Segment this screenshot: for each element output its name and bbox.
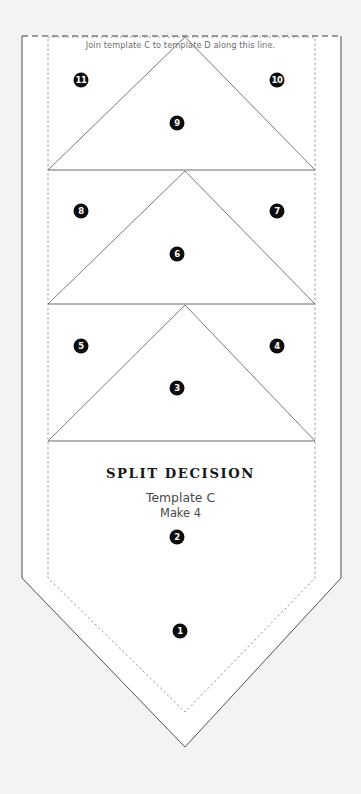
- piece-number-badge-6: 6: [170, 247, 185, 262]
- piece-number-badge-8: 8: [74, 204, 89, 219]
- piece-number-badge-11: 11: [74, 73, 89, 88]
- pattern-sheet: Join template C to template D along this…: [0, 0, 361, 794]
- piece-number-badge-1: 1: [173, 624, 188, 639]
- piece-number-badge-5: 5: [74, 339, 89, 354]
- piece-number-badge-4: 4: [270, 339, 285, 354]
- piece-number-badge-7: 7: [270, 204, 285, 219]
- piece-number-badge-3: 3: [170, 381, 185, 396]
- piece-number-badge-2: 2: [170, 530, 185, 545]
- piece-number-badge-10: 10: [270, 73, 285, 88]
- piece-number-badge-9: 9: [170, 116, 185, 131]
